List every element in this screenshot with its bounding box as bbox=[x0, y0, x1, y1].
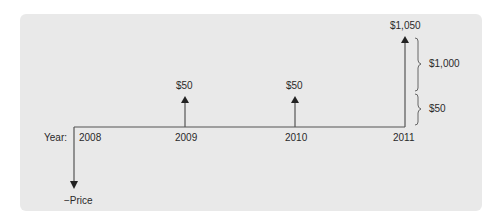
year-2009: 2009 bbox=[175, 132, 197, 143]
bracket-1000-label: $1,000 bbox=[429, 58, 460, 69]
flow-2009-label: $50 bbox=[176, 80, 193, 91]
bracket-50 bbox=[415, 94, 421, 125]
arrow-up-icon bbox=[181, 96, 189, 127]
flow-2011-label: $1,050 bbox=[390, 20, 421, 31]
year-2008: 2008 bbox=[79, 132, 101, 143]
bracket-1000 bbox=[415, 38, 421, 91]
year-2010: 2010 bbox=[285, 132, 307, 143]
cash-flow-timeline bbox=[0, 0, 503, 217]
arrow-up-icon bbox=[401, 36, 409, 127]
arrow-down-icon bbox=[70, 127, 78, 189]
year-label: Year: bbox=[44, 132, 67, 143]
flow-2008-label: −Price bbox=[64, 195, 93, 206]
bracket-50-label: $50 bbox=[429, 103, 446, 114]
arrow-up-icon bbox=[291, 96, 299, 127]
year-2011: 2011 bbox=[393, 132, 415, 143]
flow-2010-label: $50 bbox=[286, 80, 303, 91]
